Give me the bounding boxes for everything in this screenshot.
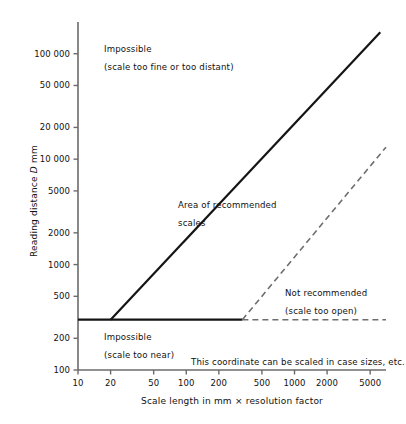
annotation-line-2: (scale too fine or too distant)	[104, 62, 234, 72]
annotation-line-2: (scale too open)	[285, 306, 367, 316]
x-tick-label: 2000	[316, 378, 338, 388]
x-tick-label: 20	[105, 378, 116, 388]
reading-distance-scale-chart: 10020050010002000500010 00020 00050 0001…	[0, 0, 406, 424]
annotation-line-1: Not recommended	[285, 288, 367, 298]
x-tick-label: 10	[72, 378, 83, 388]
y-axis-title-suffix: mm	[29, 145, 39, 166]
annotation-line-1: Impossible	[104, 332, 152, 342]
y-tick-label: 100	[0, 365, 70, 375]
annotation-line-1: Area of recommended	[178, 200, 277, 210]
annotation-impossible-too-near: Impossible(scale too near)	[104, 332, 174, 360]
x-axis-title: Scale length in mm × resolution factor	[78, 396, 386, 406]
x-tick-label: 1000	[283, 378, 305, 388]
annotation-line-1: This coordinate can be scaled in case si…	[191, 357, 405, 367]
y-tick-label: 200	[0, 333, 70, 343]
x-tick-label: 50	[148, 378, 159, 388]
annotation-impossible-too-fine: Impossible(scale too fine or too distant…	[104, 44, 234, 72]
x-tick-label: 500	[254, 378, 271, 388]
x-tick-label: 5000	[359, 378, 381, 388]
x-tick-label: 100	[178, 378, 195, 388]
y-axis-title-prefix: Reading distance	[29, 173, 39, 257]
annotation-not-recommended: Not recommended(scale too open)	[285, 288, 367, 316]
y-tick-label: 100 000	[0, 49, 70, 59]
annotation-line-1: Impossible	[104, 44, 152, 54]
x-tick-label: 200	[211, 378, 228, 388]
annotation-coordinate-note: This coordinate can be scaled in case si…	[191, 357, 405, 367]
annotation-area-of-recommended-scales: Area of recommendedscales	[178, 200, 277, 228]
y-axis-title: Reading distance D mm	[29, 131, 39, 271]
y-axis-title-symbol: D	[29, 166, 39, 173]
annotation-line-2: (scale too near)	[104, 350, 174, 360]
annotation-line-2: scales	[178, 218, 277, 228]
y-tick-label: 50 000	[0, 80, 70, 90]
upper-limit-boundary	[111, 32, 381, 319]
data-series	[78, 32, 386, 319]
y-tick-label: 500	[0, 291, 70, 301]
